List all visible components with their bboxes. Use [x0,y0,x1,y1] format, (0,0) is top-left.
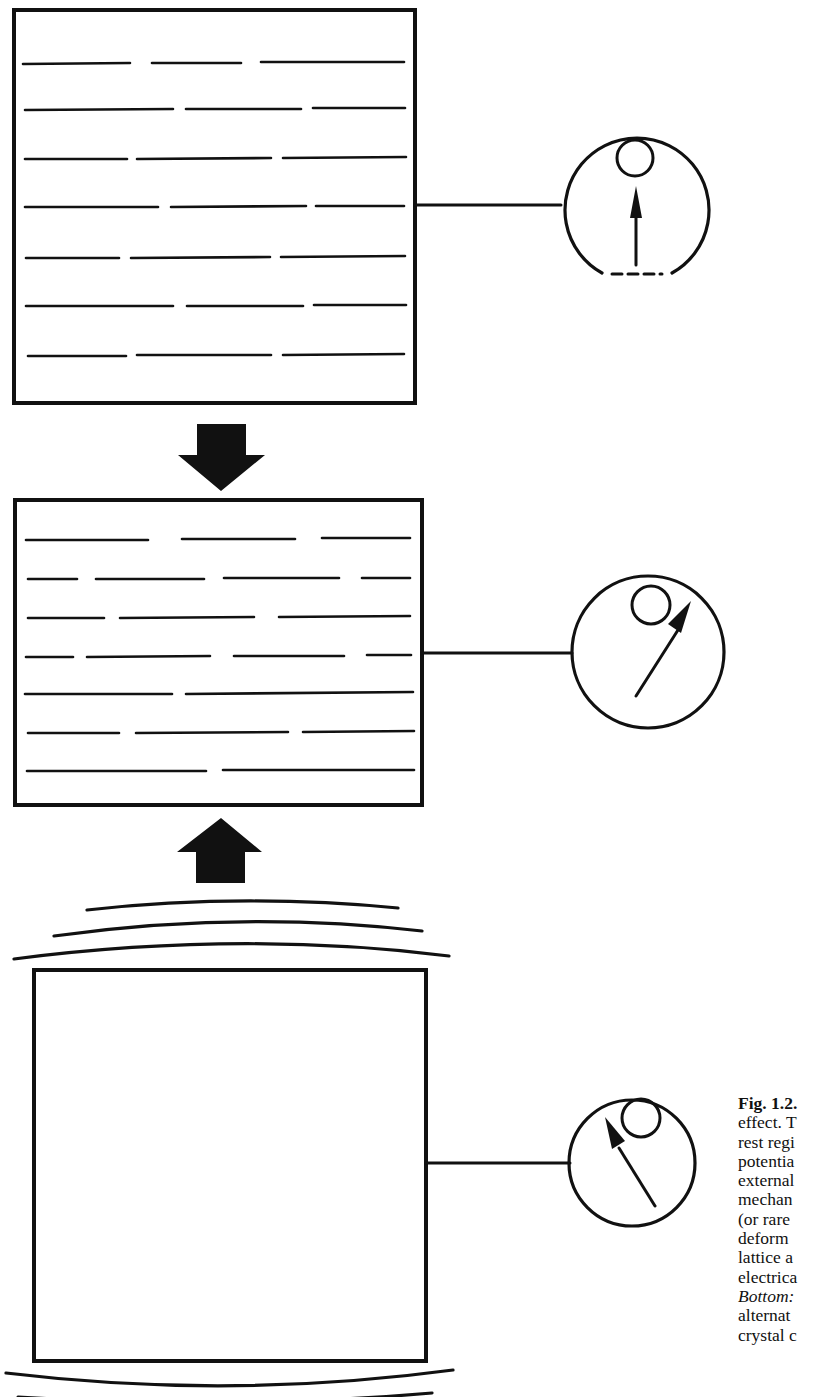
meter-middle [572,576,724,728]
lattice-lines-top [23,62,406,356]
crystal-middle [15,500,422,805]
caption-line: electrica [738,1268,821,1287]
meter-bottom [569,1099,695,1226]
force-arrow-up [177,818,262,883]
vibration-arcs-top [14,901,449,959]
crystal-top [14,10,415,403]
lattice-lines-middle [25,538,414,771]
meter-top [565,138,709,274]
caption-line: alternat [738,1306,821,1325]
figure-caption: Fig. 1.2. effect. T rest regi potentia e… [738,1094,821,1345]
figure-label: Fig. 1.2. [738,1093,797,1113]
caption-line: lattice a [738,1248,821,1267]
caption-line: (or rare [738,1210,821,1229]
caption-line: Bottom: [738,1287,821,1306]
caption-line: deform [738,1229,821,1248]
caption-line: potentia [738,1152,821,1171]
vibration-arcs-bottom [6,1370,453,1397]
crystal-bottom [34,970,426,1361]
meter-pivot-top [617,140,653,176]
force-arrow-down [178,424,265,491]
needle-middle [636,630,678,696]
caption-line: mechan [738,1190,821,1209]
needle-arrowhead-top [630,186,642,218]
caption-line: crystal c [738,1326,821,1345]
needle-bottom [619,1148,655,1206]
meter-pivot-bottom [622,1099,660,1137]
caption-line: external [738,1171,821,1190]
caption-line: effect. T [738,1113,821,1132]
piezoelectric-diagram [0,0,821,1397]
caption-line: rest regi [738,1133,821,1152]
meter-pivot-middle [632,586,670,624]
